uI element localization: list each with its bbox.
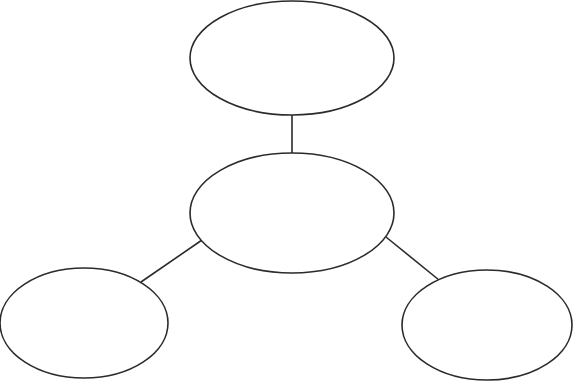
edge-center-bottom-right [386,237,439,280]
node-bottom-left[interactable] [0,268,168,378]
node-bottom-right[interactable] [402,270,572,380]
node-top[interactable] [190,1,394,115]
concept-map-diagram [0,0,582,391]
node-center[interactable] [190,153,394,273]
diagram-svg [0,0,582,391]
edge-center-bottom-left [141,240,202,282]
